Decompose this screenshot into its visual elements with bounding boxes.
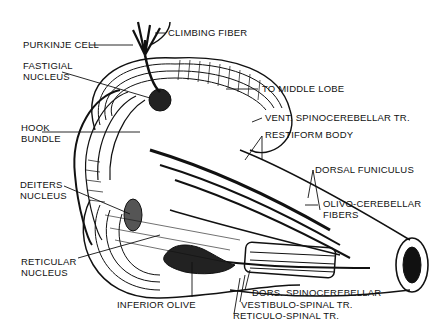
label-reticular-nucleus: RETICULAR NUCLEUS <box>21 257 77 278</box>
label-line: OLIVO-CEREBELLAR <box>323 199 421 210</box>
label-inferior-olive: INFERIOR OLIVE <box>117 300 196 311</box>
label-hook-bundle: HOOK BUNDLE <box>21 123 61 144</box>
label-line: NUCLEUS <box>23 72 73 83</box>
label-line: DEITERS <box>20 180 67 191</box>
label-line: HOOK <box>21 123 61 134</box>
label-climbing-fiber: CLIMBING FIBER <box>168 28 247 39</box>
label-dors-spinocerebellar: DORS. SPINOCEREBELLAR <box>252 288 381 299</box>
label-deiters-nucleus: DEITERS NUCLEUS <box>20 180 67 201</box>
label-line: NUCLEUS <box>20 191 67 202</box>
label-vestibulo-spinal: VESTIBULO-SPINAL TR. <box>241 300 353 311</box>
label-olivo-cerebellar: OLIVO-CEREBELLAR FIBERS <box>323 199 421 220</box>
label-dorsal-funiculus: DORSAL FUNICULUS <box>315 165 414 176</box>
label-vent-spinocerebellar: VENT. SPINOCEREBELLAR TR. <box>265 113 410 124</box>
label-line: BUNDLE <box>21 134 61 145</box>
label-purkinje-cell: PURKINJE CELL <box>23 40 99 51</box>
label-reticulo-spinal: RETICULO-SPINAL TR. <box>233 311 339 322</box>
label-line: FIBERS <box>323 210 421 221</box>
label-line: RETICULAR <box>21 257 77 268</box>
label-line: NUCLEUS <box>21 268 77 279</box>
label-restiform-body: RESTIFORM BODY <box>265 130 353 141</box>
label-fastigial-nucleus: FASTIGIAL NUCLEUS <box>23 61 73 82</box>
label-to-middle-lobe: TO MIDDLE LOBE <box>262 84 344 95</box>
label-line: FASTIGIAL <box>23 61 73 72</box>
anatomy-diagram: CLIMBING FIBER PURKINJE CELL FASTIGIAL N… <box>0 0 436 336</box>
